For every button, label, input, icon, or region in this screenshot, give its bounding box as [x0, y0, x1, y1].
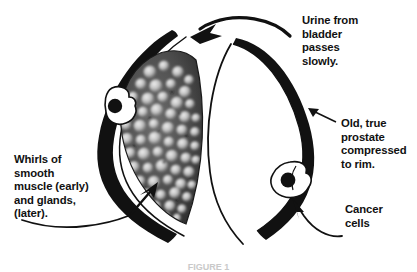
cancer-pointer-curve: [298, 207, 342, 236]
label-whirls-of-smooth-muscle: Whirls of smooth muscle (early) and glan…: [14, 153, 126, 221]
right-inner-capsule-line: [208, 44, 243, 244]
figure-root: Urine from bladder passes slowly. Old, t…: [0, 0, 417, 272]
old-prostate-pointer-arrow: [308, 108, 336, 122]
cancer-cell-right: [271, 162, 311, 198]
figure-caption: FIGURE 1: [0, 262, 417, 272]
label-old-true-prostate: Old, true prostate compressed to rim.: [341, 117, 417, 171]
cancer-cell-left-nucleus: [108, 99, 122, 113]
right-hyperplastic-lobe: [208, 38, 314, 244]
label-urine-from-bladder: Urine from bladder passes slowly.: [302, 14, 410, 68]
cancer-cell-right-nucleus: [281, 173, 296, 188]
label-cancer-cells: Cancer cells: [345, 203, 417, 230]
